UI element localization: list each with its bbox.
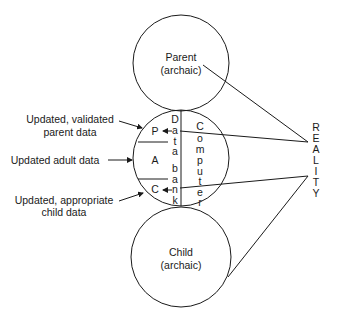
section-p: P bbox=[151, 125, 158, 137]
parent-circle bbox=[133, 15, 229, 111]
ego-states-diagram: Parent (archaic) Child (archaic) P A C D… bbox=[0, 0, 341, 321]
parent-label: Parent bbox=[166, 51, 197, 63]
child-sublabel: (archaic) bbox=[161, 259, 202, 271]
label-child-data-line2: child data bbox=[42, 206, 87, 218]
svg-text:k: k bbox=[172, 194, 178, 206]
section-a: A bbox=[151, 154, 158, 166]
child-label: Child bbox=[169, 246, 193, 258]
svg-text:a: a bbox=[172, 145, 178, 157]
label-parent-data-line1: Updated, validated bbox=[26, 113, 114, 125]
parent-sublabel: (archaic) bbox=[161, 64, 202, 76]
arrow-parent-data bbox=[119, 121, 142, 128]
data-bank-label: D a t a b a n k bbox=[171, 113, 179, 206]
arrow-child-data bbox=[119, 193, 143, 201]
svg-text:Y: Y bbox=[312, 187, 319, 199]
label-child-data-line1: Updated, appropriate bbox=[15, 194, 114, 206]
reality-label: R E A L I T Y bbox=[312, 121, 320, 199]
label-parent-data-line2: parent data bbox=[43, 126, 96, 138]
label-adult-data: Updated adult data bbox=[11, 154, 100, 166]
svg-text:C: C bbox=[196, 120, 204, 132]
svg-text:r: r bbox=[198, 196, 202, 208]
section-c: C bbox=[151, 183, 159, 195]
